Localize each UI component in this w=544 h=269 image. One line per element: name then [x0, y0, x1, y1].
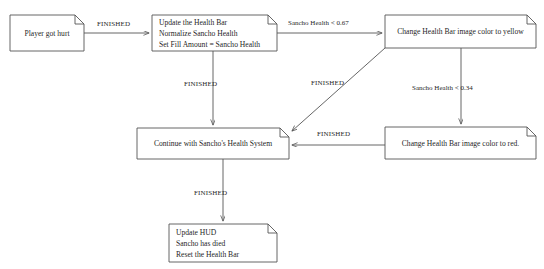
connector-yellow-to-continue — [292, 48, 385, 131]
node-text-line: Continue with Sancho's Health System — [154, 138, 272, 149]
edge-label-yellow-to-red: Sancho Health < 0.34 — [412, 84, 473, 92]
node-change-bar-red[interactable]: Change Health Bar image color to red. — [385, 127, 536, 159]
edge-label-hurt-to-update: FINISHED — [97, 20, 130, 28]
node-update-hud[interactable]: Update HUD Sancho has died Reset the Hea… — [169, 224, 277, 262]
node-text-line: Normalize Sancho Health — [159, 28, 237, 39]
node-text-line: Sancho has died — [176, 238, 225, 249]
edge-label-update-to-yellow: Sancho Health < 0.67 — [288, 19, 349, 27]
node-text-line: Update the Health Bar — [159, 17, 227, 28]
node-change-bar-yellow[interactable]: Change Health Bar image color to yellow — [385, 15, 536, 48]
node-player-got-hurt[interactable]: Player got hurt — [10, 15, 84, 51]
node-text-line: Set Fill Amount = Sancho Health — [159, 39, 260, 50]
node-text-line: Update HUD — [176, 227, 216, 238]
flowchart-canvas: Player got hurt Update the Health Bar No… — [0, 0, 544, 269]
node-text-line: Reset the Health Bar — [176, 249, 239, 260]
node-update-health-bar[interactable]: Update the Health Bar Normalize Sancho H… — [152, 15, 277, 51]
node-text-line: Change Health Bar image color to red. — [402, 138, 519, 149]
edge-label-yellow-to-continue: FINISHED — [311, 79, 344, 87]
node-text-line: Player got hurt — [24, 28, 69, 39]
node-continue-health-system[interactable]: Continue with Sancho's Health System — [137, 128, 289, 159]
edge-label-red-to-continue: FINISHED — [317, 130, 350, 138]
edge-label-update-to-continue: FINISHED — [184, 80, 217, 88]
edge-label-continue-to-hud: FINISHED — [194, 189, 227, 197]
node-text-line: Change Health Bar image color to yellow — [397, 26, 524, 37]
